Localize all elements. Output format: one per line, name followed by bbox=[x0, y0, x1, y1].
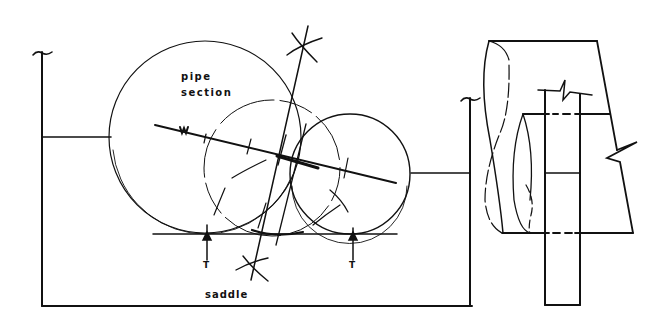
pipe-label-line2: section bbox=[181, 88, 232, 98]
pipe-label-line1: pipe bbox=[181, 72, 212, 82]
thrust-label-right: T bbox=[349, 261, 355, 270]
tick-3 bbox=[344, 158, 348, 178]
saddle-label: saddle bbox=[205, 290, 248, 300]
small-pipe-inner-arc bbox=[292, 186, 407, 243]
arc-mark-3 bbox=[330, 190, 348, 212]
side-view bbox=[484, 41, 637, 305]
pipe-saddle-diagram bbox=[0, 0, 667, 330]
small-pipe-circle bbox=[290, 114, 410, 234]
saddle-frame bbox=[42, 52, 472, 306]
construction-line bbox=[276, 124, 306, 245]
thrust-arrow-left bbox=[203, 225, 211, 260]
tick-1 bbox=[204, 134, 206, 143]
arc-mark-1 bbox=[232, 160, 266, 178]
center-line bbox=[155, 125, 396, 183]
intersection-mark-top bbox=[287, 33, 322, 62]
construction-circle bbox=[204, 100, 340, 236]
thrust-arrow-right bbox=[349, 228, 357, 260]
thrust-label-left: T bbox=[203, 261, 209, 270]
